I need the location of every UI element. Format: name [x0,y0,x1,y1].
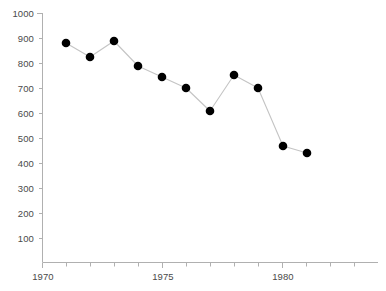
x-tick-label-1975: 1975 [144,272,182,282]
data-point [86,53,95,62]
y-tick-label-500: 500 [4,134,34,144]
y-tick-label-1000: 1000 [4,9,34,19]
data-point [230,71,239,80]
y-tick-label-100: 100 [4,234,34,244]
y-axis-ticks [37,14,43,239]
data-point [254,84,263,93]
y-tick-label-300: 300 [4,184,34,194]
x-tick-label-1970: 1970 [24,272,62,282]
data-point [134,62,143,71]
y-tick-label-400: 400 [4,159,34,169]
line-chart [0,0,386,291]
y-tick-label-800: 800 [4,59,34,69]
data-point [279,142,288,151]
data-point [303,149,312,158]
data-point [206,107,215,116]
data-point [110,37,119,46]
data-point [182,84,191,93]
y-tick-label-600: 600 [4,109,34,119]
y-tick-label-200: 200 [4,209,34,219]
y-tick-label-900: 900 [4,34,34,44]
series-line [66,41,307,153]
x-tick-label-1980: 1980 [264,272,302,282]
data-point [62,39,71,48]
x-axis-ticks [43,263,355,269]
series-markers [62,37,312,158]
chart-page: 1000 900 800 700 600 500 400 300 200 100… [0,0,386,291]
y-tick-label-700: 700 [4,84,34,94]
data-point [158,73,167,82]
